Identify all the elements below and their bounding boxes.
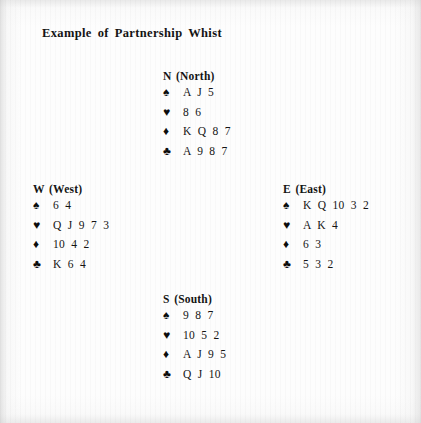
spade-icon: ♠ — [163, 86, 183, 98]
spade-icon: ♠ — [283, 199, 303, 211]
hand-east: E (East) ♠ K Q 10 3 2 ♥ A K 4 ♦ 6 3 ♣ 5 … — [283, 183, 369, 277]
hand-north-hearts-row: ♥ 8 6 — [163, 106, 231, 126]
hand-south-hearts: 10 5 2 — [183, 329, 219, 341]
hand-north-clubs-row: ♣ A 9 8 7 — [163, 145, 231, 165]
hand-west-label: W (West) — [33, 183, 109, 195]
club-icon: ♣ — [163, 145, 183, 157]
whist-diagram-page: Example of Partnership Whist N (North) ♠… — [0, 0, 421, 423]
page-title: Example of Partnership Whist — [42, 26, 222, 41]
hand-north-spades-row: ♠ A J 5 — [163, 86, 231, 106]
hand-north-clubs: A 9 8 7 — [183, 145, 228, 157]
heart-icon: ♥ — [33, 219, 53, 231]
hand-south-spades: 9 8 7 — [183, 309, 213, 321]
hand-north-diamonds-row: ♦ K Q 8 7 — [163, 125, 231, 145]
hand-north: N (North) ♠ A J 5 ♥ 8 6 ♦ K Q 8 7 ♣ A 9 … — [163, 70, 231, 164]
diamond-icon: ♦ — [163, 125, 183, 137]
heart-icon: ♥ — [283, 219, 303, 231]
hand-east-label: E (East) — [283, 183, 369, 195]
hand-east-clubs: 5 3 2 — [303, 258, 333, 270]
hand-south-clubs-row: ♣ Q J 10 — [163, 368, 226, 388]
diamond-icon: ♦ — [163, 348, 183, 360]
hand-east-hearts: A K 4 — [303, 219, 338, 231]
hand-south-clubs: Q J 10 — [183, 368, 221, 380]
hand-west-clubs-row: ♣ K 6 4 — [33, 258, 109, 278]
hand-west: W (West) ♠ 6 4 ♥ Q J 9 7 3 ♦ 10 4 2 ♣ K … — [33, 183, 109, 277]
hand-west-hearts-row: ♥ Q J 9 7 3 — [33, 219, 109, 239]
hand-west-clubs: K 6 4 — [53, 258, 86, 270]
diamond-icon: ♦ — [283, 238, 303, 250]
hand-east-diamonds: 6 3 — [303, 238, 321, 250]
hand-west-spades-row: ♠ 6 4 — [33, 199, 109, 219]
hand-south-hearts-row: ♥ 10 5 2 — [163, 329, 226, 349]
page-content: Example of Partnership Whist N (North) ♠… — [0, 0, 421, 423]
hand-south: S (South) ♠ 9 8 7 ♥ 10 5 2 ♦ A J 9 5 ♣ Q… — [163, 293, 226, 387]
hand-west-diamonds: 10 4 2 — [53, 238, 89, 250]
hand-south-label: S (South) — [163, 293, 226, 305]
hand-east-clubs-row: ♣ 5 3 2 — [283, 258, 369, 278]
spade-icon: ♠ — [33, 199, 53, 211]
hand-south-diamonds: A J 9 5 — [183, 348, 226, 360]
hand-west-diamonds-row: ♦ 10 4 2 — [33, 238, 109, 258]
spade-icon: ♠ — [163, 309, 183, 321]
hand-east-spades-row: ♠ K Q 10 3 2 — [283, 199, 369, 219]
club-icon: ♣ — [283, 258, 303, 270]
hand-south-spades-row: ♠ 9 8 7 — [163, 309, 226, 329]
heart-icon: ♥ — [163, 106, 183, 118]
hand-north-diamonds: K Q 8 7 — [183, 125, 231, 137]
hand-north-label: N (North) — [163, 70, 231, 82]
club-icon: ♣ — [33, 258, 53, 270]
hand-north-spades: A J 5 — [183, 86, 214, 98]
club-icon: ♣ — [163, 368, 183, 380]
hand-east-diamonds-row: ♦ 6 3 — [283, 238, 369, 258]
hand-east-spades: K Q 10 3 2 — [303, 199, 369, 211]
hand-north-hearts: 8 6 — [183, 106, 201, 118]
hand-west-spades: 6 4 — [53, 199, 71, 211]
hand-west-hearts: Q J 9 7 3 — [53, 219, 109, 231]
diamond-icon: ♦ — [33, 238, 53, 250]
heart-icon: ♥ — [163, 329, 183, 341]
hand-east-hearts-row: ♥ A K 4 — [283, 219, 369, 239]
hand-south-diamonds-row: ♦ A J 9 5 — [163, 348, 226, 368]
